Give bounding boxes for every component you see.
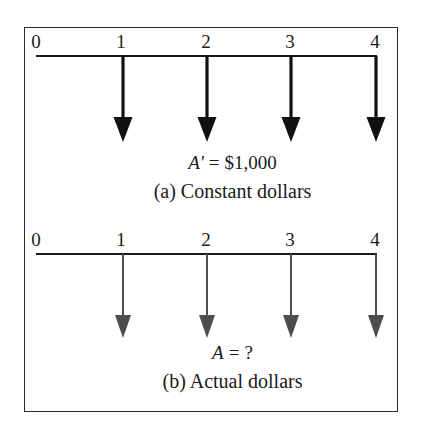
amount-value-panel-a: $1,000 xyxy=(225,152,277,173)
amount-value-panel-b: ? xyxy=(244,342,252,363)
timeline-panel-b xyxy=(0,198,421,348)
amount-label-panel-a: A'=$1,000 xyxy=(22,152,421,174)
amount-equals-panel-b: = xyxy=(229,342,240,363)
amount-symbol-panel-a: A' xyxy=(188,152,204,173)
timeline-panel-a xyxy=(0,0,421,150)
figure-root: 0 1 2 3 4 xyxy=(0,0,421,431)
cashflow-arrow-period-2-panel-a xyxy=(198,56,217,142)
amount-equals-panel-a: = xyxy=(209,152,220,173)
cashflow-arrow-period-3-panel-a xyxy=(282,56,301,142)
cashflow-arrow-period-1-panel-b xyxy=(115,254,131,338)
cashflow-arrow-period-3-panel-b xyxy=(283,254,299,338)
cashflow-arrow-period-4-panel-a xyxy=(367,56,386,142)
cashflow-arrow-period-4-panel-b xyxy=(368,254,384,338)
amount-label-panel-b: A=? xyxy=(22,342,421,364)
caption-panel-b: (b) Actual dollars xyxy=(22,370,421,393)
cashflow-arrow-period-2-panel-b xyxy=(199,254,215,338)
cashflow-arrow-period-1-panel-a xyxy=(114,56,133,142)
amount-symbol-panel-b: A xyxy=(212,342,224,363)
